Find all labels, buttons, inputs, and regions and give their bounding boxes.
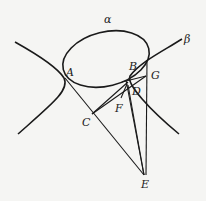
label-beta: β	[183, 33, 190, 46]
label-D: D	[131, 85, 141, 98]
label-B: B	[128, 60, 137, 73]
label-F: F	[114, 102, 123, 115]
label-E: E	[140, 178, 149, 191]
geometry-figure: α β A B C D E F G	[0, 0, 206, 201]
segment-G-E	[146, 60, 147, 175]
label-G: G	[151, 69, 160, 82]
label-A: A	[65, 66, 74, 79]
label-alpha: α	[104, 13, 112, 26]
label-C: C	[82, 116, 91, 129]
hyperbola-beta-left-branch	[15, 42, 65, 134]
diagram-canvas: α β A B C D E F G	[0, 0, 206, 201]
